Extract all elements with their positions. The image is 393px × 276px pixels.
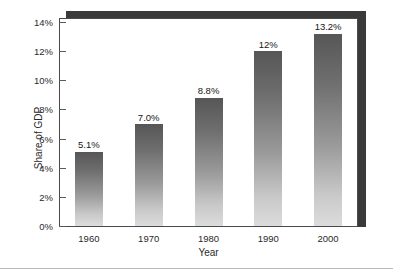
- bar: 5.1%1960: [75, 152, 103, 226]
- y-axis-tick-label: 14%: [34, 18, 53, 28]
- bar-value-label: 13.2%: [315, 22, 342, 32]
- bar-value-label: 8.8%: [198, 86, 220, 96]
- bar: 12%1990: [254, 51, 282, 226]
- y-axis-tick-label: 10%: [34, 77, 53, 87]
- bar-chart-figure: 0%2%4%6%8%10%12%14% 5.1%19607.0%19708.8%…: [0, 0, 393, 276]
- bar-value-label: 12%: [259, 40, 278, 50]
- y-axis-tick-label: 0%: [39, 222, 53, 232]
- x-axis-title: Year: [59, 248, 358, 258]
- y-axis-title: Share of GDP: [34, 107, 44, 169]
- y-axis-tick: 12%: [59, 51, 66, 52]
- y-axis-tick-label: 12%: [34, 47, 53, 57]
- y-axis-tick: 14%: [59, 22, 66, 23]
- plot-axes: 0%2%4%6%8%10%12%14% 5.1%19607.0%19708.8%…: [59, 22, 358, 226]
- bar: 13.2%2000: [314, 34, 342, 226]
- x-axis-tick-label: 1990: [258, 234, 279, 244]
- x-axis-tick-label: 1970: [138, 234, 159, 244]
- page-rule: [0, 268, 393, 269]
- y-axis-tick: 2%: [59, 197, 66, 198]
- x-axis-tick-label: 1980: [198, 234, 219, 244]
- bar-value-label: 5.1%: [78, 140, 100, 150]
- bar: 8.8%1980: [195, 98, 223, 226]
- bar: 7.0%1970: [135, 124, 163, 226]
- bar-value-label: 7.0%: [138, 113, 160, 123]
- y-axis-tick: 4%: [59, 168, 66, 169]
- y-axis-tick: 6%: [59, 139, 66, 140]
- x-axis-tick-label: 2000: [318, 234, 339, 244]
- y-axis-tick: 0%: [59, 226, 66, 227]
- x-axis-tick-label: 1960: [78, 234, 99, 244]
- y-axis-tick-label: 2%: [39, 193, 53, 203]
- y-axis-tick: 8%: [59, 109, 66, 110]
- y-axis-tick: 10%: [59, 80, 66, 81]
